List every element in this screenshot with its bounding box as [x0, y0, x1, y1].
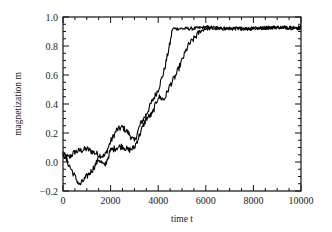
x-tick-label: 2000 [101, 195, 121, 206]
y-axis-label: magnetization m [13, 72, 23, 136]
y-tick-label: 0.4 [46, 99, 59, 110]
y-tick-label: −0.2 [40, 186, 58, 197]
magnetization-chart: 0200040006000800010000−0.20.00.20.40.60.… [0, 0, 332, 232]
series-line-2 [63, 26, 301, 185]
x-tick-label: 0 [61, 195, 66, 206]
series-lines [63, 26, 301, 185]
x-tick-label: 8000 [243, 195, 263, 206]
x-tick-label: 10000 [289, 195, 314, 206]
y-tick-label: 0.8 [46, 41, 59, 52]
x-tick-label: 6000 [196, 195, 216, 206]
axis-ticks [63, 17, 301, 191]
x-axis-label: time t [171, 214, 193, 224]
y-tick-label: 0.0 [46, 157, 59, 168]
series-line-1 [63, 26, 301, 159]
y-tick-label: 0.6 [46, 70, 59, 81]
tick-labels: 0200040006000800010000−0.20.00.20.40.60.… [40, 12, 314, 207]
y-tick-label: 1.0 [46, 12, 59, 23]
plot-frame [63, 17, 301, 191]
x-tick-label: 4000 [148, 195, 168, 206]
y-tick-label: 0.2 [46, 128, 59, 139]
